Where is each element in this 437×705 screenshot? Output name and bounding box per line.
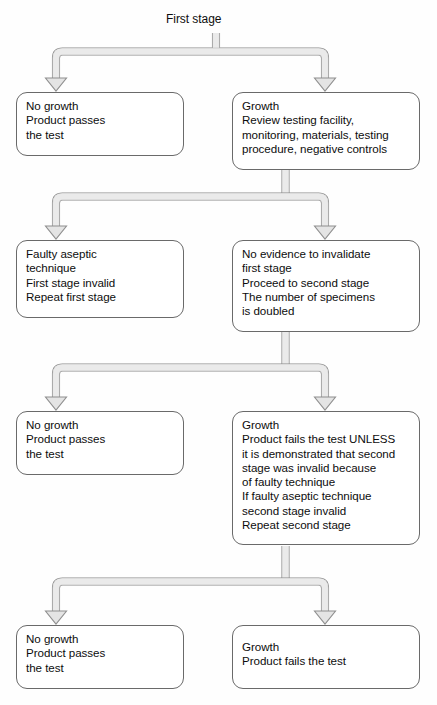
node-line: Growth (242, 418, 419, 432)
node-line: Product fails the test (242, 654, 419, 668)
node-line: the test (26, 128, 183, 142)
connector-growth1-to-split2 (282, 170, 289, 193)
node-line: stage was invalid because (242, 461, 419, 475)
node-line: the test (26, 447, 183, 461)
node-line: Product passes (26, 646, 183, 660)
node-line: second stage invalid (242, 504, 419, 518)
node-line: the test (26, 661, 183, 675)
node-line: monitoring, materials, testing (242, 128, 419, 142)
faulty-aseptic-technique-box: Faulty aseptic technique First stage inv… (16, 240, 184, 318)
node-line: Repeat second stage (242, 518, 419, 532)
node-line: Proceed to second stage (242, 276, 419, 290)
connector-first-stage-split (46, 33, 336, 91)
node-line: Faulty aseptic (26, 247, 183, 261)
connector-second-split (46, 193, 336, 239)
node-line: technique (26, 261, 183, 275)
no-evidence-proceed-second-stage-box: No evidence to invalidate first stage Pr… (232, 240, 420, 332)
node-line: Product passes (26, 113, 183, 127)
connector-fourth-split (46, 578, 336, 624)
node-line: No growth (26, 418, 183, 432)
node-line: Growth (242, 640, 419, 654)
node-line: Repeat first stage (26, 290, 183, 304)
first-stage-label: First stage (166, 12, 221, 26)
flowchart-diagram: First stage No growth Product passes the… (0, 0, 437, 705)
growth-review-first-stage-box: Growth Review testing facility, monitori… (232, 92, 420, 170)
node-line: No growth (26, 99, 183, 113)
node-line: it is demonstrated that second (242, 447, 419, 461)
node-line: Product passes (26, 432, 183, 446)
node-line: If faulty aseptic technique (242, 489, 419, 503)
node-line: First stage invalid (26, 276, 183, 290)
node-line: Review testing facility, (242, 113, 419, 127)
growth-product-fails-final-box: Growth Product fails the test (232, 625, 420, 689)
node-line: first stage (242, 261, 419, 275)
node-line: Growth (242, 99, 419, 113)
node-line: No growth (26, 632, 183, 646)
node-line: of faulty technique (242, 475, 419, 489)
node-line: The number of specimens (242, 290, 419, 304)
connector-bigbox-to-split4 (282, 546, 289, 578)
node-line: No evidence to invalidate (242, 247, 419, 261)
no-growth-second-stage-box: No growth Product passes the test (16, 411, 184, 475)
node-line: Product fails the test UNLESS (242, 432, 419, 446)
node-line: is doubled (242, 304, 419, 318)
connector-third-split (46, 364, 336, 410)
no-growth-final-box: No growth Product passes the test (16, 625, 184, 689)
connector-secondstage-to-split3 (282, 331, 289, 364)
no-growth-first-stage-box: No growth Product passes the test (16, 92, 184, 156)
node-line: procedure, negative controls (242, 142, 419, 156)
growth-product-fails-unless-box: Growth Product fails the test UNLESS it … (232, 411, 420, 545)
